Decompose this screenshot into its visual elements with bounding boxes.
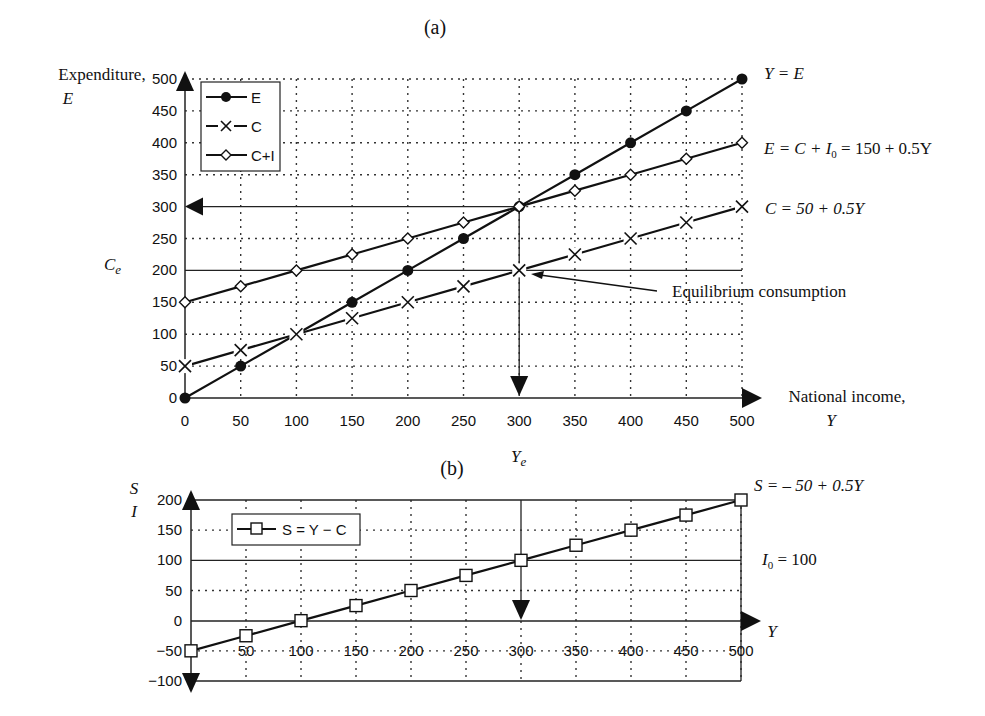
annotation-i0: I0 = 100: [761, 550, 817, 571]
data-point: [185, 645, 197, 657]
ce-label: Ce: [104, 255, 121, 277]
ye-label: Ye: [511, 447, 526, 469]
data-point: [568, 247, 582, 261]
data-point: [735, 494, 747, 506]
svg-text:C+I: C+I: [251, 147, 275, 164]
data-point: [402, 265, 413, 276]
x-tick-label: 50: [232, 412, 249, 429]
y-tick-label: −100: [148, 672, 182, 689]
x-axis-label-line1: National income,: [788, 387, 905, 406]
data-point: [289, 327, 303, 341]
x-tick-label: 400: [618, 642, 643, 659]
data-point: [402, 233, 413, 244]
y-tick-label: 50: [160, 357, 177, 374]
data-point: [680, 509, 692, 521]
data-point: [681, 105, 692, 116]
x-tick-label: 450: [674, 412, 699, 429]
x-tick-label: 150: [343, 642, 368, 659]
y-tick-label: 150: [152, 293, 177, 310]
data-point: [569, 185, 580, 196]
data-point: [625, 137, 636, 148]
x-tick-label: 300: [507, 412, 532, 429]
arrowhead-icon: [531, 271, 544, 279]
data-point: [180, 393, 191, 404]
y-tick-label: 200: [157, 491, 182, 508]
data-point: [240, 630, 252, 642]
y-tick-label: 150: [157, 521, 182, 538]
y-tick-label: 500: [152, 70, 177, 87]
data-point: [347, 297, 358, 308]
open-square-icon: [251, 523, 262, 534]
svg-text:Equilibrium consumption: Equilibrium consumption: [672, 282, 847, 301]
x-tick-label: 350: [563, 642, 588, 659]
arrow-down-icon: [182, 673, 200, 693]
y-axis-label-line1: Expenditure,: [58, 65, 145, 84]
data-point: [457, 279, 471, 293]
y-tick-label: 250: [152, 230, 177, 247]
x-tick-label: 200: [395, 412, 420, 429]
data-point: [570, 539, 582, 551]
y-tick-label: 200: [152, 261, 177, 278]
data-point: [458, 217, 469, 228]
data-point: [347, 249, 358, 260]
x-tick-label: 450: [673, 642, 698, 659]
data-point: [515, 554, 527, 566]
data-point: [625, 169, 636, 180]
x-tick-label: 200: [398, 642, 423, 659]
data-point: [458, 233, 469, 244]
x-tick-label: 0: [181, 412, 189, 429]
y-tick-label: 300: [152, 198, 177, 215]
svg-text:E: E: [251, 89, 261, 106]
arrow-right-icon: [741, 611, 761, 631]
data-point: [350, 600, 362, 612]
y-tick-label: 100: [157, 551, 182, 568]
arrow-down-icon: [512, 600, 530, 620]
arrow-right-icon: [742, 388, 762, 408]
x-tick-label: 50: [238, 642, 255, 659]
i-axis-label: I: [130, 502, 138, 521]
x-tick-label: 400: [618, 412, 643, 429]
x-axis-label-b: Y: [767, 622, 778, 641]
svg-text:S = Y − C: S = Y − C: [282, 521, 347, 538]
arrow-down-icon: [510, 376, 528, 396]
data-point: [405, 585, 417, 597]
data-point: [234, 343, 248, 357]
x-tick-label: 100: [284, 412, 309, 429]
data-point: [401, 295, 415, 309]
equilibrium-consumption-callout: Equilibrium consumption: [531, 271, 847, 301]
x-tick-label: 250: [453, 642, 478, 659]
x-tick-label: 500: [728, 642, 753, 659]
data-point: [235, 281, 246, 292]
annotation-c-equation: C = 50 + 0.5Y: [765, 199, 866, 218]
x-tick-label: 350: [562, 412, 587, 429]
y-tick-label: 0: [174, 612, 182, 629]
y-tick-label: −50: [157, 642, 182, 659]
data-point: [512, 263, 526, 277]
x-tick-label: 300: [508, 642, 533, 659]
data-point: [178, 359, 192, 373]
y-tick-label: 400: [152, 134, 177, 151]
annotation-e-equation: E = C + I0 = 150 + 0.5Y: [763, 139, 932, 160]
data-point: [681, 153, 692, 164]
panel-a-label: (a): [424, 16, 446, 39]
legend-b: S = Y − C: [232, 514, 360, 545]
legend-a: E C C+I: [201, 82, 280, 171]
data-point: [735, 200, 749, 214]
data-point: [291, 265, 302, 276]
data-point: [295, 615, 307, 627]
annotation-y-equals-e: Y = E: [764, 64, 804, 83]
data-point: [460, 569, 472, 581]
y-tick-label: 450: [152, 102, 177, 119]
svg-text:C: C: [251, 118, 262, 135]
panel-a: (a) Expenditure, E National income, Y 05…: [58, 16, 932, 469]
panel-b: (b) S I Y −100−5005010015020005010015020…: [130, 457, 865, 693]
income-expenditure-figure: (a) Expenditure, E National income, Y 05…: [0, 0, 985, 716]
y-tick-label: 100: [152, 325, 177, 342]
x-tick-label: 100: [288, 642, 313, 659]
data-point: [569, 169, 580, 180]
arrow-up-icon: [176, 71, 194, 91]
data-point: [180, 297, 191, 308]
data-point: [624, 232, 638, 246]
y-tick-label: 0: [169, 389, 177, 406]
panel-b-label: (b): [440, 457, 463, 480]
